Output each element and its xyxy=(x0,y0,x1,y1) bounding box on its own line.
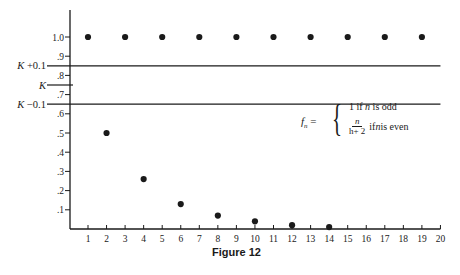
y-tick-label: .4 xyxy=(57,148,64,158)
y-tick-label: .6 xyxy=(57,109,64,119)
data-point xyxy=(141,176,147,182)
x-tick-label: 20 xyxy=(436,234,446,244)
data-point xyxy=(382,34,388,40)
data-point xyxy=(103,130,109,136)
data-point xyxy=(233,34,239,40)
x-tick-label: 13 xyxy=(306,234,316,244)
data-point xyxy=(326,224,332,230)
data-point xyxy=(215,212,221,218)
y-tick-label: .1 xyxy=(57,205,64,215)
data-point xyxy=(270,34,276,40)
x-tick-label: 6 xyxy=(178,234,183,244)
y-tick-label: 1.0 xyxy=(52,33,64,43)
x-tick-label: 2 xyxy=(104,234,109,244)
formula-case-even: n h+ 2 if n is even xyxy=(349,117,408,136)
x-tick-label: 4 xyxy=(141,234,146,244)
x-tick-label: 9 xyxy=(234,234,239,244)
x-tick-label: 15 xyxy=(343,234,353,244)
data-point xyxy=(159,34,165,40)
x-tick-label: 7 xyxy=(197,234,202,244)
data-point xyxy=(196,34,202,40)
x-tick-label: 16 xyxy=(362,234,372,244)
reference-line-label: K −0.1 xyxy=(16,99,46,110)
data-point xyxy=(85,34,91,40)
x-tick-label: 14 xyxy=(324,234,334,244)
x-tick-label: 17 xyxy=(380,234,390,244)
y-tick-label: .9 xyxy=(57,52,64,62)
x-tick-label: 5 xyxy=(160,234,165,244)
figure-12: 1234567891011121314151617181920.1.2.3.4.… xyxy=(0,0,460,275)
data-point xyxy=(308,34,314,40)
x-tick-label: 10 xyxy=(250,234,260,244)
y-tick-label: .3 xyxy=(57,167,64,177)
x-tick-label: 3 xyxy=(123,234,128,244)
x-tick-label: 11 xyxy=(269,234,278,244)
y-tick-label: .2 xyxy=(57,186,64,196)
reference-line-label: K xyxy=(38,80,47,91)
data-point xyxy=(178,201,184,207)
formula-lhs: fn = xyxy=(301,116,317,130)
x-tick-label: 18 xyxy=(399,234,409,244)
x-tick-label: 19 xyxy=(417,234,427,244)
scatter-plot: 1234567891011121314151617181920.1.2.3.4.… xyxy=(0,0,460,275)
formula-case-odd: 1 if n is odd xyxy=(349,102,397,112)
data-point xyxy=(252,218,258,224)
reference-line-label: K +0.1 xyxy=(16,60,46,71)
y-tick-label: .7 xyxy=(57,90,64,100)
x-tick-label: 12 xyxy=(287,234,297,244)
left-brace-icon: { xyxy=(332,99,342,137)
data-point xyxy=(345,34,351,40)
y-tick-label: .8 xyxy=(57,71,64,81)
data-point xyxy=(419,34,425,40)
figure-caption: Figure 12 xyxy=(212,246,261,258)
y-tick-label: .5 xyxy=(57,129,64,139)
data-point xyxy=(289,222,295,228)
fraction: n h+ 2 xyxy=(349,117,365,136)
x-tick-label: 1 xyxy=(86,234,91,244)
data-point xyxy=(122,34,128,40)
x-tick-label: 8 xyxy=(215,234,220,244)
